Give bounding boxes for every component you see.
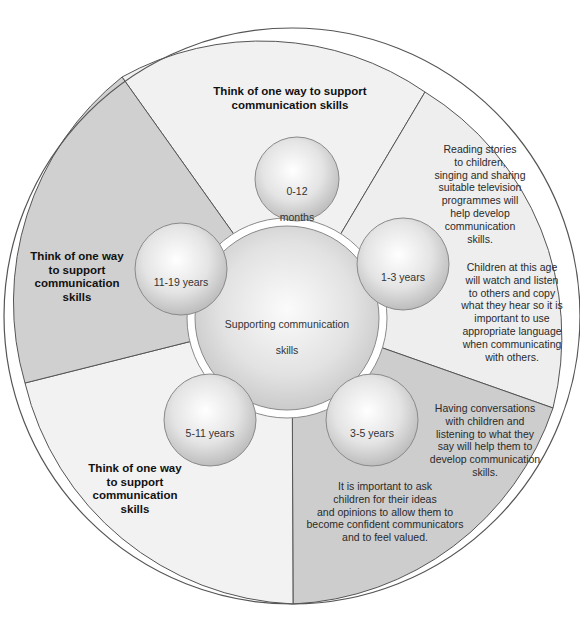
text-line: It is important to ask [300,480,470,493]
text-line: children for their ideas [300,493,470,506]
bubble-label-line: 5-11 years [170,427,250,440]
prompt-line: Think of one way [80,462,190,476]
text-line: say will help them to [420,440,550,453]
text-line: communication [420,220,540,233]
bubble-label-line: 3-5 years [332,427,412,440]
text-line: with children and [420,415,550,428]
right-upper-paragraph-2: Children at this age will watch and list… [452,261,572,363]
text-line: appropriate language [452,325,572,338]
prompt-line: communication skills [180,99,400,113]
left-lower-prompt: Think of one way to support communicatio… [80,462,190,516]
left-upper-prompt: Think of one way to support communicatio… [22,250,132,304]
text-line: and to feel valued. [300,531,470,544]
text-line: to children, [420,156,540,169]
text-line: with others. [452,351,572,364]
prompt-line: communication [22,277,132,291]
bubble-label-line: 0-12 [257,185,337,198]
right-upper-paragraph-1: Reading stories to children, singing and… [420,143,540,245]
text-line: become confident communicators [300,518,470,531]
text-line: programmes will [420,194,540,207]
text-line: listening to what they [420,428,550,441]
text-line: important to use [452,312,572,325]
text-line: Reading stories [420,143,540,156]
top-segment-prompt: Think of one way to support communicatio… [180,85,400,112]
bubble-label-line: 11-19 years [141,276,221,289]
text-line: help develop [420,207,540,220]
text-line: skills. [420,466,550,479]
text-line: will watch and listen [452,274,572,287]
bubble-label-line: months [257,211,337,224]
center-label-line2: skills [217,344,357,357]
bubble-label-3-5-years: 3-5 years [332,414,412,453]
prompt-line: to support [22,264,132,278]
text-line: skills. [420,233,540,246]
prompt-line: skills [80,503,190,517]
text-line: what they hear so it is [452,299,572,312]
right-lower-paragraph-2: It is important to ask children for thei… [300,480,470,544]
text-line: develop communication [420,453,550,466]
prompt-line: to support [80,476,190,490]
center-label: Supporting communication skills [217,305,357,370]
text-line: suitable television [420,181,540,194]
prompt-line: Think of one way [22,250,132,264]
bubble-label-11-19-years: 11-19 years [141,263,221,302]
text-line: when communicating [452,338,572,351]
right-lower-paragraph-1: Having conversations with children and l… [420,402,550,479]
text-line: and opinions to allow them to [300,506,470,519]
bubble-label-0-12-months: 0-12 months [257,172,337,237]
text-line: to others and copy [452,287,572,300]
bubble-label-line: 1-3 years [363,271,443,284]
text-line: singing and sharing [420,169,540,182]
prompt-line: Think of one way to support [180,85,400,99]
bubble-label-5-11-years: 5-11 years [170,414,250,453]
center-label-line1: Supporting communication [217,318,357,331]
prompt-line: communication [80,489,190,503]
prompt-line: skills [22,291,132,305]
text-line: Children at this age [452,261,572,274]
bubble-label-1-3-years: 1-3 years [363,258,443,297]
text-line: Having conversations [420,402,550,415]
